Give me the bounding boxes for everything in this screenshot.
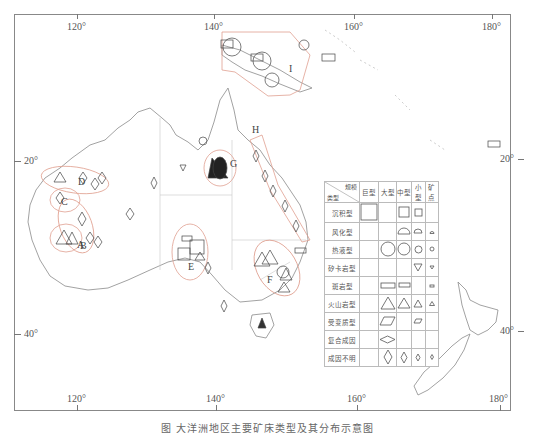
legend-cell bbox=[360, 241, 379, 259]
legend-cell bbox=[397, 295, 412, 313]
legend-header-type: 类型 bbox=[327, 193, 339, 202]
legend-type-label: 复合成因 bbox=[325, 331, 360, 349]
rectangle-icon-large bbox=[380, 282, 396, 289]
semicircle-icon-medium bbox=[397, 227, 411, 235]
legend-cell bbox=[425, 241, 438, 259]
triangle-icon-occurrence bbox=[429, 301, 435, 306]
legend-cell bbox=[412, 277, 426, 295]
legend-cell bbox=[379, 331, 397, 349]
symbol-cluster bbox=[213, 157, 227, 179]
legend-cell bbox=[412, 223, 426, 241]
region-label-B: B bbox=[80, 240, 87, 251]
legend-cell bbox=[397, 241, 412, 259]
diamond-symbol bbox=[94, 236, 102, 248]
rectangle-icon-occurrence bbox=[429, 284, 435, 288]
diamond-symbol bbox=[221, 300, 227, 312]
inverted-triangle-icon-occurrence bbox=[429, 265, 435, 270]
triangle-symbol bbox=[258, 318, 266, 328]
legend-col-giant: 巨型 bbox=[360, 182, 379, 203]
legend-cell bbox=[360, 295, 379, 313]
legend-cell bbox=[425, 313, 438, 331]
triangle-icon-large bbox=[380, 296, 396, 310]
legend-cell bbox=[412, 331, 426, 349]
rectangle-symbol bbox=[322, 54, 335, 61]
semicircle-icon-occurrence bbox=[429, 230, 435, 234]
diamond-icon-occurrence bbox=[430, 354, 434, 360]
figure-caption: 图 大洋洲地区主要矿床类型及其分布示意图 bbox=[0, 420, 535, 435]
triangle-icon-medium bbox=[397, 297, 411, 309]
diamond-symbol bbox=[126, 208, 134, 220]
legend-type-label: 沉积型 bbox=[325, 203, 360, 223]
legend-row: 受变质型 bbox=[325, 313, 439, 331]
circle-icon-medium bbox=[397, 242, 411, 256]
legend-table: 规模 类型 巨型 大型 中型 小型 矿点 沉积型 风化型 热液型 矽卡岩型 bbox=[324, 181, 439, 367]
legend-type-label: 受变质型 bbox=[325, 313, 360, 331]
legend-type-label: 风化型 bbox=[325, 223, 360, 241]
legend-type-label: 斑岩型 bbox=[325, 277, 360, 295]
legend-cell bbox=[360, 223, 379, 241]
legend-cell bbox=[425, 349, 438, 367]
legend-cell bbox=[360, 331, 379, 349]
legend-cell bbox=[412, 203, 426, 223]
region-label-H: H bbox=[252, 124, 259, 135]
legend-cell bbox=[360, 203, 379, 223]
legend-header-scale: 规模 bbox=[345, 182, 357, 191]
circle-icon-large bbox=[380, 241, 396, 257]
legend-cell bbox=[397, 223, 412, 241]
legend-row: 矽卡岩型 bbox=[325, 259, 439, 277]
legend-cell bbox=[425, 223, 438, 241]
region-label-I: I bbox=[289, 63, 292, 74]
square-icon-medium bbox=[398, 206, 410, 218]
legend-cell bbox=[397, 313, 412, 331]
region-H-outline bbox=[250, 135, 310, 242]
rectangle-symbol bbox=[488, 141, 500, 147]
legend-cell bbox=[397, 331, 412, 349]
legend-corner-header: 规模 类型 bbox=[325, 182, 360, 203]
legend-type-label: 成因不明 bbox=[325, 349, 360, 367]
legend-cell bbox=[379, 295, 397, 313]
circle-icon-small bbox=[414, 245, 423, 254]
region-outlines bbox=[40, 32, 310, 304]
legend-cell bbox=[425, 295, 438, 313]
square-symbol bbox=[190, 240, 204, 254]
legend-cell bbox=[397, 259, 412, 277]
legend-header-row: 规模 类型 巨型 大型 中型 小型 矿点 bbox=[325, 182, 439, 203]
legend-cell bbox=[379, 203, 397, 223]
circle-symbol bbox=[277, 266, 289, 278]
region-label-G: G bbox=[230, 158, 237, 169]
parallelogram-icon-large bbox=[379, 316, 396, 326]
region-label-F: F bbox=[267, 274, 273, 285]
legend-cell bbox=[397, 277, 412, 295]
legend-cell bbox=[425, 259, 438, 277]
legend-row: 斑岩型 bbox=[325, 277, 439, 295]
region-label-C: C bbox=[61, 196, 68, 207]
legend-cell bbox=[379, 349, 397, 367]
square-icon-small bbox=[414, 208, 423, 217]
inverted-triangle-icon-small bbox=[413, 263, 423, 272]
triangle-symbol bbox=[54, 172, 66, 182]
legend-row: 沉积型 bbox=[325, 203, 439, 223]
diamond-symbol bbox=[293, 220, 299, 232]
legend-col-small: 小型 bbox=[412, 182, 426, 203]
circle-symbol bbox=[223, 38, 241, 56]
legend-row: 成因不明 bbox=[325, 349, 439, 367]
legend-cell bbox=[425, 331, 438, 349]
rectangle-icon-medium bbox=[398, 282, 411, 288]
circle-symbol bbox=[265, 73, 279, 87]
legend-cell bbox=[360, 349, 379, 367]
legend-cell bbox=[412, 313, 426, 331]
legend-cell bbox=[412, 259, 426, 277]
state-boundaries bbox=[160, 118, 306, 280]
legend-cell bbox=[425, 203, 438, 223]
diamond-icon-small bbox=[415, 353, 421, 362]
triangle-icon-small bbox=[413, 299, 423, 308]
legend-cell bbox=[412, 295, 426, 313]
legend-cell bbox=[379, 241, 397, 259]
legend-cell bbox=[360, 259, 379, 277]
inverted-triangle-symbol bbox=[180, 165, 186, 171]
region-F-outline bbox=[245, 232, 310, 304]
diamond-icon-medium bbox=[400, 351, 408, 364]
legend-row: 热液型 bbox=[325, 241, 439, 259]
legend-cell bbox=[360, 277, 379, 295]
